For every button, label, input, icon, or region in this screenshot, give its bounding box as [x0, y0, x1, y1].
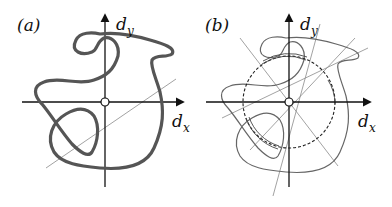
origin-marker: [101, 98, 109, 106]
panel-a-label: (a): [17, 15, 40, 35]
diagram-canvas: (a) dy dx (b): [0, 0, 392, 207]
panel-a: (a) dy dx: [17, 14, 190, 187]
origin-marker: [285, 98, 293, 106]
y-axis-label: dy: [300, 14, 318, 38]
panel-b-label: (b): [205, 15, 229, 35]
x-axis-label: dx: [358, 111, 376, 135]
ray-line: [46, 79, 176, 168]
x-axis-label: dx: [172, 111, 190, 135]
panel-b: (b) dy dx: [205, 14, 376, 196]
